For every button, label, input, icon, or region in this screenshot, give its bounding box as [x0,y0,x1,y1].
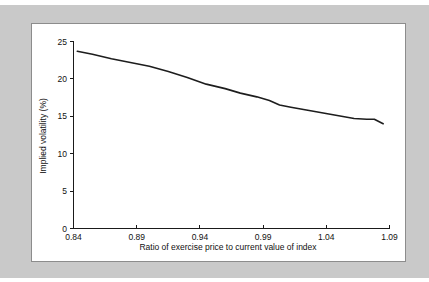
y-tick-label: 25 [58,37,68,47]
x-tick-label: 0.84 [65,232,82,242]
y-tick-label: 15 [58,111,68,121]
x-tick-label: 0.99 [255,232,272,242]
x-tick-label: 1.04 [318,232,335,242]
volatility-skew-chart: 0510152025 0.840.890.940.991.041.09 Rati… [32,24,405,261]
y-axis-ticks: 0510152025 [58,37,74,234]
axes-group [74,42,390,229]
y-tick-label: 20 [58,74,68,84]
x-tick-label: 0.94 [192,232,209,242]
figure-root: 0510152025 0.840.890.940.991.041.09 Rati… [0,0,429,282]
y-axis-title: Implied volatility (%) [38,98,48,174]
x-axis-title: Ratio of exercise price to current value… [139,242,317,252]
y-tick-label: 5 [62,186,67,196]
x-tick-label: 0.89 [128,232,145,242]
x-tick-label: 1.09 [381,232,398,242]
x-axis-ticks: 0.840.890.940.991.041.09 [65,225,398,242]
top-margin-strip [0,0,429,5]
bottom-margin-strip [0,278,429,282]
chart-panel: 0510152025 0.840.890.940.991.041.09 Rati… [31,23,406,262]
data-series-line [77,51,383,124]
y-tick-label: 10 [58,149,68,159]
